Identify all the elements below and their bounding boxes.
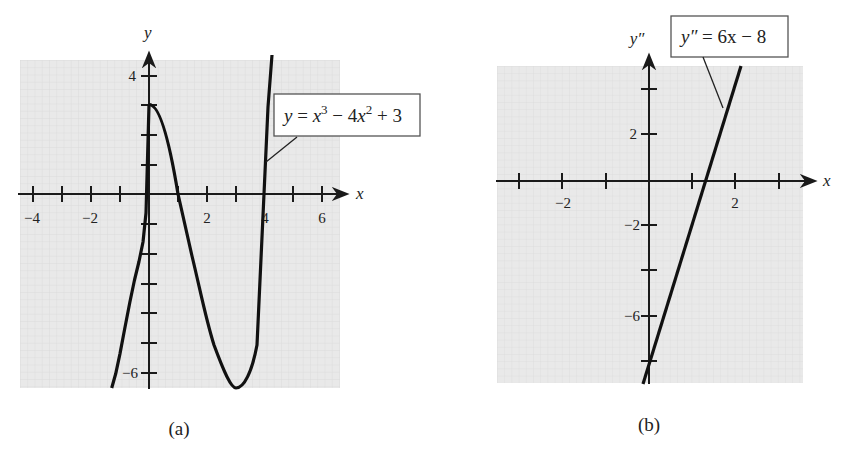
y-tick-label-b: −6 bbox=[624, 308, 640, 324]
x-tick-label-a: −2 bbox=[82, 210, 98, 226]
x-tick-label-b: −2 bbox=[555, 195, 571, 211]
x-tick-label-a: −4 bbox=[24, 210, 40, 226]
x-axis-label-a: x bbox=[355, 184, 364, 203]
caption-a: (a) bbox=[168, 418, 189, 440]
x-tick-label-a: 6 bbox=[318, 210, 326, 226]
y-tick-label-b: −2 bbox=[624, 217, 640, 233]
svg-text:y = x3 − 4x2 + 3: y = x3 − 4x2 + 3 bbox=[282, 102, 402, 126]
chart-b: −2 2 2 −2 −6 x y″ y″ = 6x − 8 (b) bbox=[496, 16, 831, 436]
y-tick-label-a: 4 bbox=[129, 68, 137, 84]
x-tick-label-a: 2 bbox=[203, 210, 211, 226]
y-tick-label-b: 2 bbox=[630, 126, 638, 142]
y-axis-label-a: y bbox=[142, 23, 152, 42]
caption-b: (b) bbox=[638, 414, 660, 436]
figure: −4 −2 2 4 6 4 −6 x y y = x3 − 4x2 + 3 (a… bbox=[0, 0, 844, 461]
y-axis-label-b: y″ bbox=[628, 29, 646, 48]
x-axis-label-b: x bbox=[822, 171, 831, 190]
chart-a: −4 −2 2 4 6 4 −6 x y y = x3 − 4x2 + 3 (a… bbox=[18, 23, 420, 440]
y-tick-label-a: −6 bbox=[122, 365, 138, 381]
x-tick-label-b: 2 bbox=[731, 195, 739, 211]
svg-text:y″ = 6x − 8: y″ = 6x − 8 bbox=[679, 26, 766, 47]
